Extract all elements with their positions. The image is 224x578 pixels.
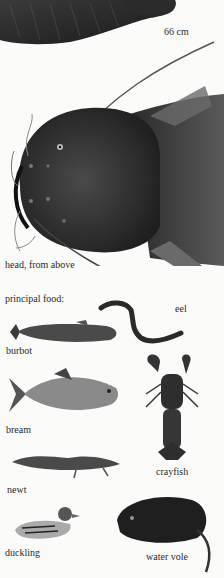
newt-illustration bbox=[8, 448, 123, 483]
food-item-burbot: burbot bbox=[6, 345, 32, 356]
water-vole-illustration bbox=[112, 490, 222, 575]
bream-illustration bbox=[6, 366, 121, 426]
food-item-duckling: duckling bbox=[5, 547, 40, 558]
duckling-illustration bbox=[10, 500, 85, 545]
food-item-newt: newt bbox=[7, 484, 26, 495]
crayfish-illustration bbox=[138, 352, 208, 462]
head-caption: head, from above bbox=[5, 259, 75, 270]
food-item-crayfish: crayfish bbox=[156, 466, 188, 477]
catfish-head-illustration bbox=[0, 36, 224, 266]
food-item-water-vole: water vole bbox=[146, 551, 188, 562]
food-heading: principal food: bbox=[5, 293, 64, 304]
food-item-bream: bream bbox=[6, 424, 31, 435]
food-item-eel: eel bbox=[175, 303, 187, 314]
burbot-illustration bbox=[6, 318, 121, 348]
